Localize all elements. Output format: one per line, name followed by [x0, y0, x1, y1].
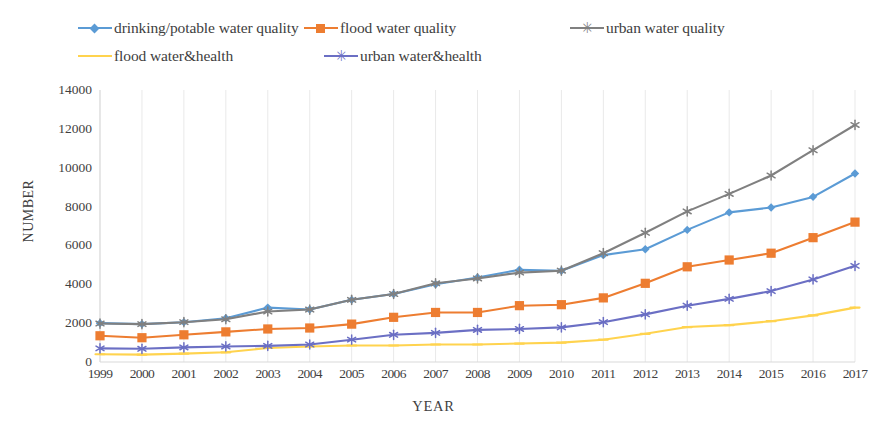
legend-item[interactable]: flood water quality — [304, 20, 456, 36]
data-point-marker-diamond — [809, 193, 817, 201]
legend-row: flood water&health✳urban water&health — [78, 42, 798, 70]
data-point-marker-star — [683, 207, 691, 216]
x-tick-label: 2000 — [119, 366, 165, 382]
legend-marker-star: ✳ — [581, 21, 593, 35]
data-point-marker-square — [305, 323, 314, 332]
data-point-marker-square — [599, 293, 608, 302]
legend-marker — [304, 21, 338, 35]
x-tick-label: 2010 — [538, 366, 584, 382]
x-axis-tick-labels: 1999200020012002200320042005200620072008… — [0, 366, 867, 386]
x-tick-label: 2002 — [203, 366, 249, 382]
legend-item[interactable]: drinking/potable water quality — [78, 20, 299, 36]
legend-item[interactable]: ✳urban water quality — [570, 20, 725, 36]
legend-marker: ✳ — [570, 21, 604, 35]
legend-label: flood water quality — [340, 20, 456, 36]
data-point-marker-square — [808, 233, 817, 242]
legend-item[interactable]: flood water&health — [78, 48, 233, 64]
data-point-marker-square — [767, 249, 776, 258]
data-point-marker-square — [95, 331, 104, 340]
plot-area: NUMBER 14000120001000080006000400020000 — [0, 78, 867, 378]
legend-label: urban water&health — [360, 48, 482, 64]
x-tick-label: 2009 — [496, 366, 542, 382]
legend-marker-square — [316, 24, 325, 33]
legend-marker-diamond — [90, 24, 100, 34]
legend-item[interactable]: ✳urban water&health — [324, 48, 482, 64]
plot-svg — [0, 78, 867, 378]
data-point-marker-diamond — [767, 203, 775, 211]
data-point-marker-square — [683, 262, 692, 271]
data-point-marker-star — [851, 120, 859, 129]
data-point-marker-square — [473, 308, 482, 317]
x-tick-label: 2006 — [371, 366, 417, 382]
x-tick-label: 2015 — [748, 366, 794, 382]
data-point-marker-square — [557, 300, 566, 309]
x-tick-label: 2008 — [455, 366, 501, 382]
data-point-marker-square — [515, 301, 524, 310]
chart-legend: drinking/potable water qualityflood wate… — [78, 14, 798, 70]
legend-row: drinking/potable water qualityflood wate… — [78, 14, 798, 42]
x-tick-label: 2013 — [664, 366, 710, 382]
x-tick-label: 2005 — [329, 366, 375, 382]
data-point-marker-star — [641, 228, 649, 237]
legend-marker-star: ✳ — [335, 49, 347, 63]
data-point-marker-square — [725, 255, 734, 264]
data-point-marker-square — [641, 279, 650, 288]
data-point-marker-diamond — [725, 208, 733, 216]
x-tick-label: 2012 — [622, 366, 668, 382]
data-point-marker-square — [263, 324, 272, 333]
x-tick-label: 2017 — [832, 366, 873, 382]
legend-label: urban water quality — [606, 20, 725, 36]
x-tick-label: 2004 — [287, 366, 333, 382]
data-point-marker-square — [389, 313, 398, 322]
data-point-marker-square — [850, 218, 859, 227]
data-point-marker-diamond — [683, 226, 691, 234]
data-point-marker-diamond — [641, 245, 649, 253]
data-point-marker-diamond — [851, 169, 859, 177]
data-point-marker-square — [431, 308, 440, 317]
legend-label: drinking/potable water quality — [114, 20, 299, 36]
legend-marker — [78, 21, 112, 35]
x-tick-label: 1999 — [77, 366, 123, 382]
data-point-marker-star — [809, 146, 817, 155]
x-tick-label: 2016 — [790, 366, 836, 382]
data-point-marker-square — [179, 330, 188, 339]
x-axis-title: YEAR — [0, 398, 867, 415]
x-tick-label: 2001 — [161, 366, 207, 382]
data-point-marker-square — [347, 320, 356, 329]
legend-label: flood water&health — [114, 48, 233, 64]
x-tick-label: 2014 — [706, 366, 752, 382]
x-tick-label: 2007 — [413, 366, 459, 382]
data-point-marker-star — [767, 171, 775, 180]
legend-marker: ✳ — [324, 49, 358, 63]
x-tick-label: 2011 — [580, 366, 626, 382]
data-point-marker-square — [221, 327, 230, 336]
legend-marker — [78, 49, 112, 63]
legend-line — [78, 55, 112, 57]
data-point-marker-square — [137, 333, 146, 342]
x-tick-label: 2003 — [245, 366, 291, 382]
